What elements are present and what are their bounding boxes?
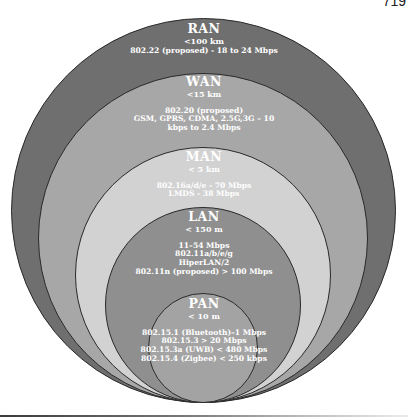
ran-detail: 802.22 (proposed) - 18 to 24 Mbps (0, 47, 408, 56)
wan-label: WAN <15 km 802.20 (proposed) GSM, GPRS, … (0, 75, 408, 133)
ran-label: RAN <100 km 802.22 (proposed) - 18 to 24… (0, 22, 408, 55)
bottom-rule-divider (0, 415, 408, 417)
man-label: MAN < 5 km 802.16a/d/e - 70 Mbps LMDS - … (0, 150, 408, 199)
wan-title: WAN (0, 75, 408, 89)
wan-detail: kbps to 2.4 Mbps (0, 124, 408, 133)
lan-range: < 150 m (0, 225, 408, 234)
man-title: MAN (0, 150, 408, 164)
pan-title: PAN (0, 297, 408, 311)
man-detail: LMDS - 38 Mbps (0, 190, 408, 199)
lan-label: LAN < 150 m 11–54 Mbps 802.11a/b/e/g Hip… (0, 210, 408, 276)
page-number: 719 (383, 0, 406, 9)
lan-detail: 802.11n (proposed) > 100 Mbps (0, 268, 408, 277)
pan-detail: 802.15.4 (Zigbee) < 250 kbps (0, 355, 408, 364)
wan-range: <15 km (0, 90, 408, 99)
pan-range: < 10 m (0, 312, 408, 321)
ran-title: RAN (0, 22, 408, 36)
pan-label: PAN < 10 m 802.15.1 (Bluetooth)–1 Mbps 8… (0, 297, 408, 363)
lan-title: LAN (0, 210, 408, 224)
man-range: < 5 km (0, 165, 408, 174)
